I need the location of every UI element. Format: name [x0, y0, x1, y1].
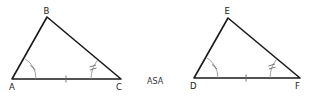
congruence-diagram: B A C ASA E D F — [0, 0, 311, 96]
angle-d-arc — [206, 57, 218, 78]
triangle-def-outline — [194, 18, 300, 78]
vertex-label-d: D — [190, 81, 197, 91]
triangle-abc-outline — [12, 17, 121, 79]
triangle-def: E D F — [190, 6, 300, 91]
triangle-abc: B A C — [9, 6, 122, 92]
vertex-label-e: E — [225, 6, 230, 16]
congruence-caption: ASA — [147, 77, 164, 86]
angle-c-tick-1 — [90, 65, 97, 67]
vertex-label-a: A — [9, 82, 15, 92]
angle-f-tick-1 — [269, 64, 276, 66]
vertex-label-b: B — [44, 6, 50, 16]
vertex-label-c: C — [116, 82, 122, 92]
vertex-label-f: F — [295, 81, 300, 91]
